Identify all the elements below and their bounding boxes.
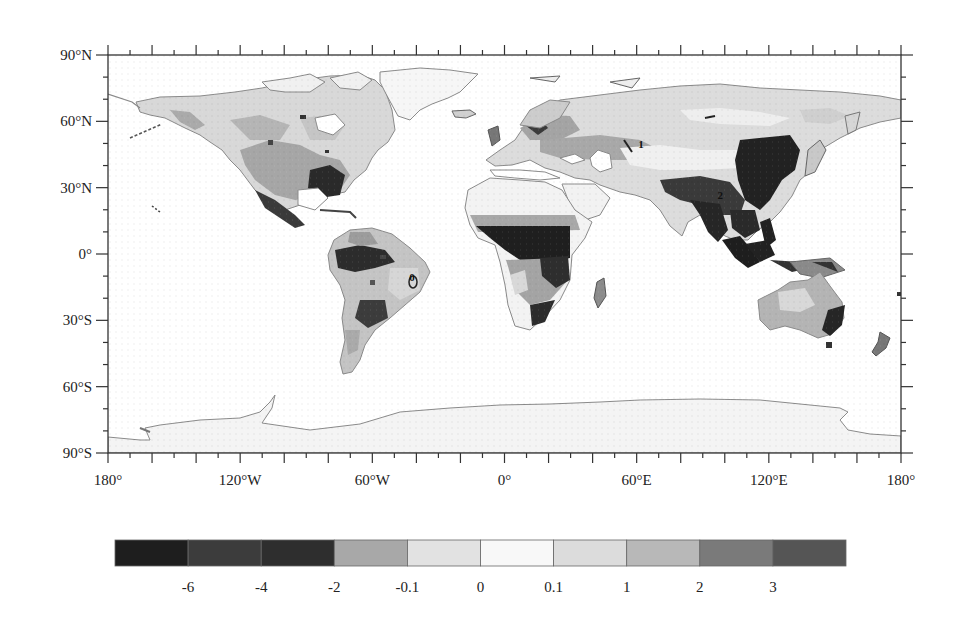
contour-label: 0 <box>409 271 415 283</box>
colorbar-label: -4 <box>255 579 268 595</box>
x-tick-label: 0° <box>498 472 512 488</box>
colorbar-swatch <box>773 540 846 566</box>
x-tick-label: 60°E <box>622 472 652 488</box>
colorbar-label: 0 <box>477 579 485 595</box>
colorbar: -6-4-2-0.100.1123 <box>115 540 846 595</box>
contour-label: 1 <box>638 138 644 150</box>
map-plot-area: 120 <box>108 55 901 453</box>
y-tick-label: 0° <box>79 246 93 262</box>
colorbar-swatch <box>334 540 407 566</box>
colorbar-label: 0.1 <box>544 579 563 595</box>
x-tick-label: 60°W <box>355 472 391 488</box>
x-tick-label: 120°W <box>219 472 262 488</box>
colorbar-label: 2 <box>696 579 704 595</box>
colorbar-label: -0.1 <box>396 579 420 595</box>
colorbar-swatch <box>627 540 700 566</box>
colorbar-swatch <box>261 540 334 566</box>
y-tick-label: 90°S <box>63 445 92 461</box>
y-tick-label: 90°N <box>60 47 92 63</box>
colorbar-swatch <box>481 540 554 566</box>
colorbar-swatch <box>115 540 188 566</box>
y-tick-label: 30°N <box>60 180 92 196</box>
colorbar-label: -6 <box>182 579 195 595</box>
colorbar-label: 3 <box>769 579 777 595</box>
colorbar-swatch <box>407 540 480 566</box>
x-tick-label: 120°E <box>750 472 788 488</box>
map-figure: 120 180°120°W60°W0°60°E120°E180° 90°N60°… <box>0 0 956 639</box>
colorbar-swatch <box>188 540 261 566</box>
y-tick-label: 30°S <box>63 312 92 328</box>
colorbar-label: -2 <box>328 579 341 595</box>
colorbar-label: 1 <box>623 579 631 595</box>
y-tick-label: 60°S <box>63 379 92 395</box>
colorbar-swatch <box>554 540 627 566</box>
x-tick-label: 180° <box>887 472 916 488</box>
y-tick-label: 60°N <box>60 113 92 129</box>
contour-label: 2 <box>718 189 724 201</box>
colorbar-swatch <box>700 540 773 566</box>
x-tick-label: 180° <box>94 472 123 488</box>
